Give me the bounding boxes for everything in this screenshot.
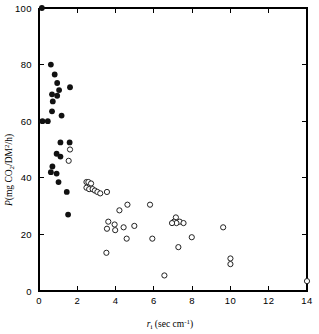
y-tick-label: 60 — [21, 116, 32, 127]
y-tick-label: 80 — [21, 59, 32, 70]
data-point — [56, 87, 62, 93]
data-point — [304, 278, 309, 283]
open-circle-series — [66, 147, 310, 284]
data-point — [189, 235, 194, 240]
data-point — [98, 191, 103, 196]
data-point — [50, 164, 56, 170]
plot-canvas: 02468101214 020406080100 P(mg CO2/DM2/h)… — [0, 0, 319, 334]
data-point — [59, 113, 65, 119]
data-point — [176, 245, 181, 250]
x-tick-label: 8 — [189, 295, 195, 306]
scatter-plot-figure: 02468101214 020406080100 P(mg CO2/DM2/h)… — [0, 0, 319, 334]
data-point — [121, 225, 126, 230]
x-axis-ticks — [39, 8, 307, 291]
data-point — [124, 236, 129, 241]
data-point — [150, 236, 155, 241]
data-point — [54, 151, 60, 157]
data-point — [104, 189, 109, 194]
data-point — [48, 62, 54, 68]
x-tick-label: 4 — [113, 295, 119, 306]
data-point — [228, 262, 233, 267]
data-point — [228, 256, 233, 261]
y-axis-tick-labels: 020406080100 — [15, 3, 32, 297]
y-tick-label: 100 — [15, 3, 32, 14]
y-tick-label: 40 — [21, 172, 32, 183]
data-point — [181, 220, 186, 225]
axes-frame — [39, 8, 307, 291]
x-tick-label: 0 — [36, 295, 42, 306]
x-tick-label: 2 — [74, 295, 80, 306]
data-point — [45, 118, 51, 124]
data-point — [117, 208, 122, 213]
data-point — [88, 181, 93, 186]
filled-circle-series — [39, 5, 73, 217]
data-point — [52, 72, 58, 78]
x-tick-label: 14 — [301, 295, 312, 306]
data-point — [49, 108, 55, 114]
data-point — [39, 5, 45, 11]
x-axis-title-text: ri (sec cm-1) — [147, 318, 193, 331]
axis-lines — [39, 8, 307, 291]
data-point — [66, 158, 71, 163]
data-point — [64, 189, 70, 195]
data-point — [169, 220, 174, 225]
x-tick-label: 10 — [225, 295, 236, 306]
data-point — [162, 273, 167, 278]
data-point — [49, 91, 55, 97]
data-point — [65, 212, 71, 218]
y-axis-ticks — [39, 8, 307, 291]
data-point — [104, 250, 109, 255]
data-point — [50, 98, 56, 104]
data-point — [125, 202, 130, 207]
x-tick-label: 12 — [263, 295, 274, 306]
data-point — [221, 225, 226, 230]
y-tick-label: 20 — [21, 229, 32, 240]
data-point — [112, 222, 117, 227]
y-axis-title: P(mg CO2/DM2/h) — [3, 134, 16, 207]
data-point — [58, 140, 64, 146]
data-point — [54, 80, 60, 86]
data-point — [67, 84, 73, 90]
x-axis-tick-labels: 02468101214 — [36, 295, 313, 306]
data-point — [48, 169, 54, 175]
data-point — [106, 219, 111, 224]
data-point — [40, 118, 46, 124]
data-point — [54, 171, 60, 177]
data-point — [67, 140, 73, 146]
data-point — [132, 223, 137, 228]
y-axis-title-text: P(mg CO2/DM2/h) — [3, 134, 16, 207]
y-tick-label: 0 — [26, 286, 32, 297]
data-point — [67, 147, 72, 152]
data-point — [104, 226, 109, 231]
data-point — [54, 93, 60, 99]
data-point — [56, 179, 62, 185]
x-tick-label: 6 — [151, 295, 157, 306]
data-point — [147, 202, 152, 207]
data-point — [113, 228, 118, 233]
x-axis-title: ri (sec cm-1) — [147, 318, 193, 331]
